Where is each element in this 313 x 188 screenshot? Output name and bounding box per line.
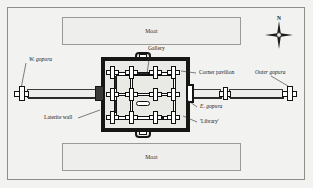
tower-se bbox=[167, 111, 180, 124]
outer-gopura-structure bbox=[282, 86, 297, 101]
label-laterite-wall: Laterite wall bbox=[44, 115, 72, 121]
moat-north: Moat bbox=[62, 17, 241, 45]
west-causeway-shadow bbox=[28, 97, 102, 99]
compass-north-label: N bbox=[262, 15, 296, 21]
enclosure-east-gopura bbox=[186, 84, 194, 103]
tower-inner-w-mid bbox=[125, 88, 138, 101]
site-plan-figure: Moat Moat bbox=[0, 0, 313, 188]
south-gopura-core bbox=[139, 131, 147, 135]
tower-ne bbox=[167, 66, 180, 79]
moat-north-label: Moat bbox=[63, 28, 240, 34]
label-corner-pavilion: Corner pavilion bbox=[199, 70, 234, 76]
label-outer-gopura: Outer gopura bbox=[255, 70, 286, 76]
compass-rose-icon: N bbox=[262, 15, 296, 53]
label-library: 'Library' bbox=[200, 119, 219, 125]
tower-s-east bbox=[149, 111, 162, 124]
tower-e-mid bbox=[167, 88, 180, 101]
tower-n-west bbox=[125, 66, 138, 79]
tower-sw bbox=[106, 111, 119, 124]
label-west-gopura: W. gopura bbox=[29, 57, 52, 63]
north-gopura-core bbox=[139, 54, 147, 58]
tower-s-west bbox=[125, 111, 138, 124]
label-gallery: Gallery bbox=[148, 46, 165, 52]
tower-nw bbox=[106, 66, 119, 79]
label-east-gopura: E. gopura bbox=[200, 104, 222, 110]
library-structure bbox=[136, 101, 150, 106]
moat-south-label: Moat bbox=[63, 154, 240, 160]
east-causeway-inner-shadow bbox=[191, 97, 222, 99]
tower-n-east bbox=[149, 66, 162, 79]
enclosure-west-gopura bbox=[95, 86, 104, 101]
east-causeway-pavilion bbox=[219, 87, 231, 100]
tower-inner-e-mid bbox=[149, 88, 162, 101]
tower-w-mid bbox=[106, 88, 119, 101]
moat-south: Moat bbox=[62, 143, 241, 171]
east-causeway-outer-shadow bbox=[230, 97, 284, 99]
west-gopura-structure bbox=[14, 86, 29, 101]
gallery-hatch-n bbox=[137, 72, 149, 76]
